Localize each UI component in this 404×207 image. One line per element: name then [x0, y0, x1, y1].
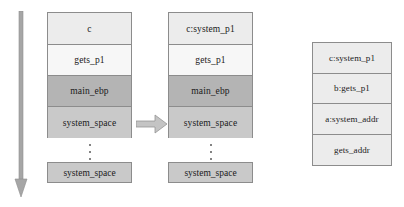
ellipsis-dot [210, 144, 212, 146]
down-arrow-icon [14, 11, 28, 197]
stack-cell: gets_addr [313, 135, 391, 166]
argument-layout: c:system_p1 b:gets_p1 a:system_addr gets… [312, 42, 392, 166]
vertical-ellipsis-icon [168, 144, 253, 160]
vertical-ellipsis-icon [47, 144, 132, 160]
stack-before: c gets_p1 main_ebp system_space [47, 12, 132, 138]
stack-cell: c:system_p1 [169, 13, 252, 45]
stack-cell: system_space [169, 107, 252, 138]
stack-tail-cell: system_space [47, 162, 132, 183]
ellipsis-dot [89, 151, 91, 153]
stack-cell: a:system_addr [313, 104, 391, 135]
stack-cell: gets_p1 [48, 45, 131, 76]
stack-cell: main_ebp [48, 76, 131, 107]
stack-tail-cell: system_space [168, 162, 253, 183]
stack-cell: system_space [48, 107, 131, 138]
ellipsis-dot [210, 158, 212, 160]
stack-layout-diagram: c gets_p1 main_ebp system_space system_s… [0, 0, 404, 207]
stack-cell: c [48, 13, 131, 45]
right-arrow-icon [136, 114, 168, 134]
stack-cell: gets_p1 [169, 45, 252, 76]
stack-cell: c:system_p1 [313, 43, 391, 74]
stack-cell: b:gets_p1 [313, 74, 391, 105]
stack-cell: main_ebp [169, 76, 252, 107]
ellipsis-dot [89, 158, 91, 160]
ellipsis-dot [89, 144, 91, 146]
stack-after: c:system_p1 gets_p1 main_ebp system_spac… [168, 12, 253, 138]
ellipsis-dot [210, 151, 212, 153]
